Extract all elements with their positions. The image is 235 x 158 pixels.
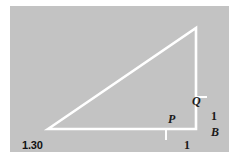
length-label-vertical: 1 — [211, 110, 217, 122]
figure-container: Q P B 1 1 1.30 — [0, 0, 235, 158]
point-label-b: B — [211, 126, 219, 138]
figure-panel: Q P B 1 1 1.30 — [10, 6, 229, 152]
point-label-p: P — [168, 113, 175, 125]
length-label-horizontal: 1 — [184, 139, 190, 151]
point-label-q: Q — [192, 95, 201, 107]
triangle-diagram — [10, 6, 229, 152]
figure-number: 1.30 — [22, 140, 43, 151]
